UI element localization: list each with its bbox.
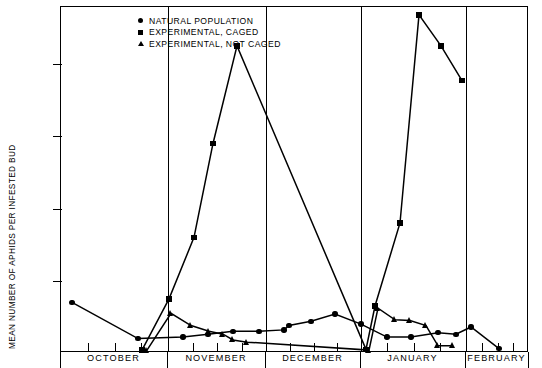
aphid-population-figure: MEAN NUMBER OF APHIDS PER INFESTED BUD 0… <box>0 0 542 368</box>
data-point-square <box>438 43 444 49</box>
triangle-glyph <box>138 41 144 46</box>
data-point-triangle <box>391 316 397 322</box>
legend-label: EXPERIMENTAL, CAGED <box>147 27 259 37</box>
data-point-circle <box>286 323 291 328</box>
month-label-october: OCTOBER <box>60 353 167 363</box>
data-point-triangle <box>406 317 412 323</box>
series-polylines <box>61 7 529 353</box>
data-point-circle <box>281 327 286 332</box>
data-point-triangle <box>434 342 440 348</box>
y-axis-title-text: MEAN NUMBER OF APHIDS PER INFESTED BUD <box>7 7 17 368</box>
data-point-triangle <box>167 310 173 316</box>
square-glyph <box>138 30 143 35</box>
data-point-square <box>397 220 403 226</box>
data-point-square <box>191 235 197 241</box>
month-label-november: NOVEMBER <box>167 353 265 363</box>
x-axis-month-band: OCTOBERNOVEMBERDECEMBERJANUARYFEBRUARY <box>60 352 528 368</box>
legend-item-0: NATURAL POPULATION <box>134 15 281 27</box>
legend-label: EXPERIMENTAL, NOT CAGED <box>147 39 281 49</box>
legend-item-1: EXPERIMENTAL, CAGED <box>134 27 281 39</box>
data-point-circle <box>69 300 74 305</box>
data-point-circle <box>453 332 458 337</box>
data-point-circle <box>384 334 389 339</box>
square-marker-icon <box>134 30 147 35</box>
legend-label: NATURAL POPULATION <box>147 16 253 26</box>
data-point-triangle <box>422 322 428 328</box>
data-point-triangle <box>243 339 249 345</box>
data-point-square <box>416 12 422 18</box>
plot-area: NATURAL POPULATIONEXPERIMENTAL, CAGEDEXP… <box>60 6 528 352</box>
legend-item-2: EXPERIMENTAL, NOT CAGED <box>134 38 281 50</box>
data-point-circle <box>332 311 337 316</box>
data-point-circle <box>468 324 473 329</box>
data-point-square <box>210 141 216 147</box>
series-line-2 <box>147 308 453 350</box>
triangle-marker-icon <box>134 41 147 46</box>
data-point-circle <box>256 329 261 334</box>
data-point-circle <box>230 329 235 334</box>
circle-glyph <box>138 18 143 23</box>
data-point-circle <box>358 321 363 326</box>
month-label-february: FEBRUARY <box>465 353 528 363</box>
data-point-circle <box>135 336 140 341</box>
data-point-square <box>459 78 465 84</box>
data-point-triangle <box>187 322 193 328</box>
data-point-triangle <box>219 331 225 337</box>
chart-legend: NATURAL POPULATIONEXPERIMENTAL, CAGEDEXP… <box>134 15 281 50</box>
data-point-triangle <box>449 342 455 348</box>
data-point-triangle <box>229 336 235 342</box>
month-label-january: JANUARY <box>360 353 465 363</box>
series-line-1 <box>142 15 462 350</box>
month-label-december: DECEMBER <box>265 353 360 363</box>
month-band-divider-5 <box>528 352 529 368</box>
y-axis-title: MEAN NUMBER OF APHIDS PER INFESTED BUD <box>7 7 21 368</box>
data-point-circle <box>496 346 501 351</box>
data-point-triangle <box>374 305 380 311</box>
circle-marker-icon <box>134 18 147 23</box>
data-point-triangle <box>205 328 211 334</box>
data-point-square <box>166 296 172 302</box>
data-point-circle <box>308 319 313 324</box>
data-point-circle <box>180 334 185 339</box>
data-point-circle <box>408 334 413 339</box>
